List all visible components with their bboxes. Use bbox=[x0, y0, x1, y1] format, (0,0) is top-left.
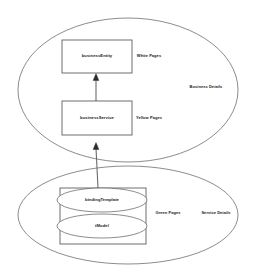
diagram-canvas: businessEntity White Pages businessServi… bbox=[0, 0, 256, 272]
binding-template-label: bindingTemplate bbox=[85, 198, 119, 202]
diagram-graphics bbox=[0, 0, 256, 272]
white-pages-label: White Pages bbox=[137, 54, 161, 58]
business-entity-label: businessEntity bbox=[82, 54, 113, 58]
business-service-label: businessService bbox=[80, 116, 114, 120]
connector-service-to-entity-arrowhead bbox=[93, 74, 99, 81]
connector-binding-to-service-arrowhead bbox=[93, 143, 99, 150]
tmodel-label: tModel bbox=[95, 224, 109, 228]
service-details-label: Service Details bbox=[201, 211, 230, 215]
green-pages-label: Green Pages bbox=[155, 211, 180, 215]
business-details-ellipse bbox=[18, 18, 238, 162]
yellow-pages-label: Yellow Pages bbox=[136, 116, 162, 120]
business-details-label: Business Details bbox=[190, 85, 223, 89]
